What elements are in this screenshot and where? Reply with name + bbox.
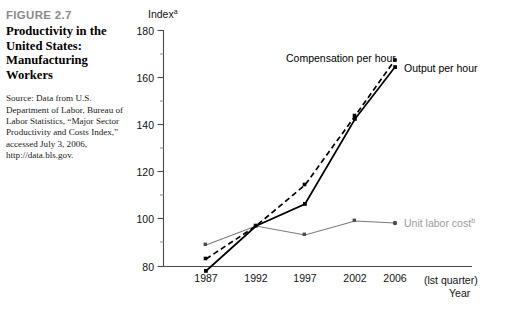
label-unit-labor-cost-text: Unit labor cost bbox=[404, 217, 471, 229]
label-unit-labor-cost: Unit labor costb bbox=[404, 217, 475, 229]
line-chart: 180 160 140 120 100 80 Indexa 1987 1992 … bbox=[0, 0, 506, 323]
x-axis-title: Year bbox=[449, 287, 471, 299]
chart-area: 180 160 140 120 100 80 Indexa 1987 1992 … bbox=[0, 0, 506, 323]
y-tick-160: 160 bbox=[136, 72, 154, 84]
label-unit-labor-cost-superscript: b bbox=[471, 217, 475, 224]
y-tick-80: 80 bbox=[142, 261, 154, 273]
x-axis-tick-labels: 1987 1992 1997 2002 2006 bbox=[194, 272, 407, 284]
series-compensation-per-hour bbox=[206, 67, 395, 271]
y-axis-title-text: Index bbox=[148, 8, 174, 20]
label-output-per-hour: Output per hour bbox=[404, 62, 478, 74]
series-output-per-hour bbox=[206, 60, 395, 259]
y-tick-120: 120 bbox=[136, 166, 154, 178]
y-tick-100: 100 bbox=[136, 213, 154, 225]
series-output-per-hour-markers bbox=[204, 58, 397, 260]
x-tick-2006: 2006 bbox=[383, 272, 407, 284]
y-axis-title-superscript: a bbox=[174, 8, 178, 15]
x-tick-2002: 2002 bbox=[343, 272, 367, 284]
figure-root: FIGURE 2.7 Productivity in the United St… bbox=[0, 0, 506, 323]
label-compensation-per-hour: Compensation per hour bbox=[286, 52, 396, 64]
x-tick-1992: 1992 bbox=[244, 272, 268, 284]
x-tick-1997: 1997 bbox=[293, 272, 317, 284]
y-axis-tick-labels: 180 160 140 120 100 80 bbox=[136, 25, 154, 273]
y-tick-180: 180 bbox=[136, 25, 154, 37]
x-tick-1987: 1987 bbox=[194, 272, 218, 284]
y-axis-title: Indexa bbox=[148, 8, 178, 20]
series-unit-labor-cost bbox=[206, 221, 395, 245]
x-axis-note: (lst quarter) bbox=[424, 274, 478, 286]
y-tick-140: 140 bbox=[136, 119, 154, 131]
